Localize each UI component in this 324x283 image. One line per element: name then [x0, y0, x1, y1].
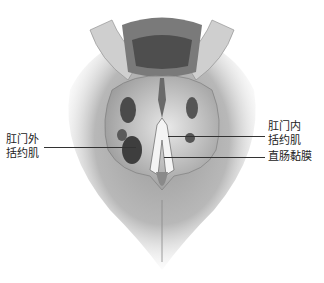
label-line: 括约肌	[6, 147, 39, 161]
label-external-anal-sphincter: 肛门外 括约肌	[6, 133, 39, 161]
label-line: 肛门内	[268, 120, 301, 134]
label-line: 肛门外	[6, 133, 39, 147]
external-sphincter-right	[186, 97, 198, 119]
label-line: 括约肌	[268, 134, 301, 148]
label-internal-anal-sphincter: 肛门内 括约肌	[268, 120, 301, 148]
label-rectal-mucosa: 直肠黏膜	[268, 150, 312, 164]
leader-line-external-sphincter	[44, 147, 136, 148]
leader-line-internal-sphincter	[168, 136, 265, 137]
leader-line-rectal-mucosa	[164, 157, 265, 158]
label-line: 直肠黏膜	[268, 150, 312, 164]
external-sphincter-left	[120, 97, 136, 123]
